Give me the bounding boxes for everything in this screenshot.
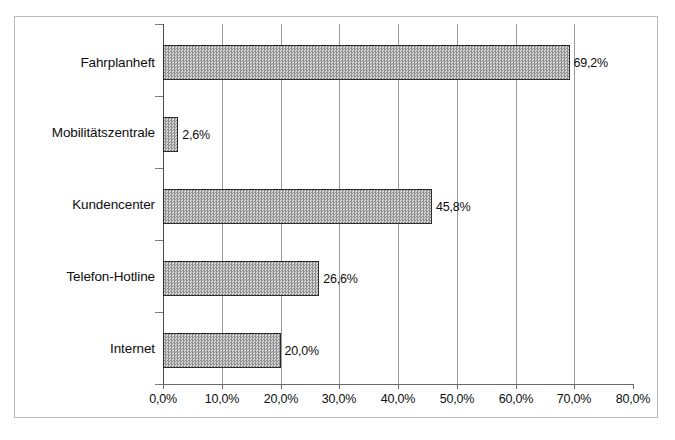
bar-chart: Fahrplanheft Mobilitätszentrale Kundence… (0, 0, 675, 440)
xtick-label-60: 60,0% (499, 392, 533, 406)
xtick-label-20: 20,0% (264, 392, 298, 406)
value-label-fahrplanheft: 69,2% (574, 56, 608, 70)
value-label-telefon-hotline: 26,6% (323, 272, 357, 286)
category-tick-0 (155, 24, 163, 25)
category-label-mobilitaetszentrale: Mobilitätszentrale (7, 125, 155, 140)
bar-internet (163, 333, 281, 368)
xtick-label-40: 40,0% (381, 392, 415, 406)
value-tick-50 (457, 384, 458, 389)
value-tick-40 (398, 384, 399, 389)
category-axis-labels: Fahrplanheft Mobilitätszentrale Kundence… (0, 0, 155, 440)
xtick-label-0: 0,0% (149, 392, 177, 406)
value-label-mobilitaetszentrale: 2,6% (182, 128, 210, 142)
value-tick-60 (516, 384, 517, 389)
bar-fahrplanheft (163, 45, 570, 80)
xtick-label-30: 30,0% (322, 392, 356, 406)
xtick-label-10: 10,0% (205, 392, 239, 406)
value-tick-70 (574, 384, 575, 389)
value-label-internet: 20,0% (285, 344, 319, 358)
value-tick-20 (281, 384, 282, 389)
bar-telefon-hotline (163, 261, 319, 296)
xtick-label-70: 70,0% (557, 392, 591, 406)
category-tick-4 (155, 312, 163, 313)
xtick-label-50: 50,0% (440, 392, 474, 406)
category-tick-2 (155, 168, 163, 169)
value-label-kundencenter: 45,8% (436, 200, 470, 214)
value-tick-80 (633, 384, 634, 389)
gridline-70 (574, 24, 575, 384)
category-tick-1 (155, 96, 163, 97)
value-tick-10 (222, 384, 223, 389)
category-tick-3 (155, 240, 163, 241)
category-label-kundencenter: Kundencenter (7, 197, 155, 212)
bar-mobilitaetszentrale (163, 117, 178, 152)
value-tick-0 (163, 384, 164, 389)
category-tick-5 (155, 384, 163, 385)
category-label-fahrplanheft: Fahrplanheft (7, 55, 155, 70)
bar-kundencenter (163, 189, 432, 224)
category-label-telefon-hotline: Telefon-Hotline (7, 269, 155, 284)
value-tick-30 (339, 384, 340, 389)
xtick-label-80: 80,0% (616, 392, 650, 406)
category-label-internet: Internet (7, 341, 155, 356)
